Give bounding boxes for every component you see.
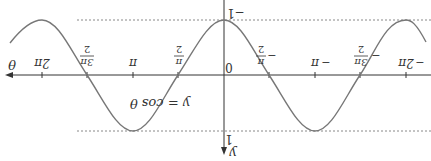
svg-text:2π: 2π <box>397 56 415 70</box>
svg-text:π: π <box>257 57 265 68</box>
function-label: y = cos θ <box>130 96 191 111</box>
y-tick-1: 1 <box>225 132 233 146</box>
svg-text:−: − <box>321 56 330 69</box>
svg-text:π: π <box>310 56 320 70</box>
svg-text:−: − <box>267 49 276 62</box>
y-axis-label: y <box>229 146 238 161</box>
x-tick-2pi: 2π <box>33 56 51 70</box>
x-axis-label: θ <box>8 57 16 72</box>
svg-text:3π: 3π <box>354 57 367 68</box>
svg-text:−1: −1 <box>227 6 245 20</box>
x-tick-neg-2pi: − 2π <box>397 56 424 70</box>
svg-text:−: − <box>415 56 424 69</box>
svg-text:π: π <box>175 57 183 68</box>
y-tick-neg1: −1 <box>227 6 245 20</box>
x-tick-3pi-over-2: 3π 2 <box>80 44 94 68</box>
x-tick-neg-pi-over-2: − π 2 <box>256 44 277 68</box>
svg-text:2: 2 <box>258 44 264 55</box>
svg-text:−: − <box>371 49 380 62</box>
chart-labels: θ y 0 1 −1 y = cos θ 2π 3π 2 π π 2 <box>0 0 431 161</box>
x-tick-pi: π <box>128 56 138 70</box>
x-tick-pi-over-2: π 2 <box>174 44 184 68</box>
svg-text:2: 2 <box>84 44 90 55</box>
svg-text:2: 2 <box>358 44 364 55</box>
svg-text:3π: 3π <box>80 57 93 68</box>
x-tick-neg-pi: − π <box>310 56 331 70</box>
svg-text:2: 2 <box>176 44 182 55</box>
cosine-graph: θ y 0 1 −1 y = cos θ 2π 3π 2 π π 2 <box>0 0 431 161</box>
origin-label: 0 <box>225 60 233 74</box>
x-tick-neg-3pi-over-2: − 3π 2 <box>354 44 381 68</box>
